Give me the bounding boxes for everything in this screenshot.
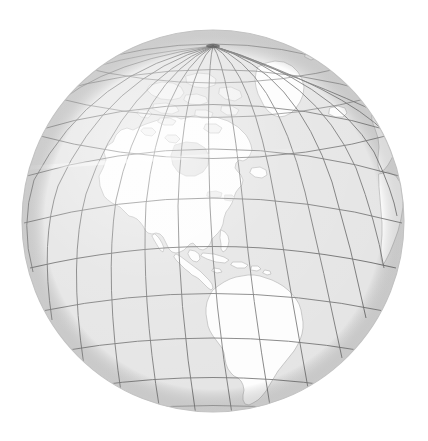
globe-svg	[0, 0, 428, 441]
globe-stage: World globe, orthographic projection cen…	[0, 0, 428, 441]
globe-limb-shading	[22, 30, 404, 412]
